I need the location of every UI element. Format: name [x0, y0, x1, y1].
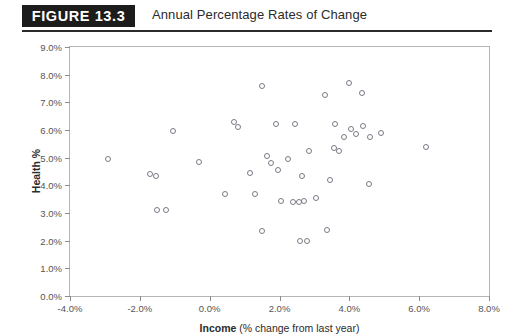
scatter-point: [259, 228, 265, 234]
scatter-point: [322, 92, 328, 98]
y-axis-tick-mark: [65, 268, 70, 269]
y-axis-tick-label: 2.0%: [40, 235, 62, 246]
x-axis-title-bold: Income: [200, 322, 237, 334]
scatter-point: [304, 238, 310, 244]
y-axis-tick-label: 4.0%: [40, 180, 62, 191]
scatter-point: [105, 156, 111, 162]
scatter-point: [366, 181, 372, 187]
y-axis-tick-label: 8.0%: [40, 69, 62, 80]
header-divider: [22, 30, 492, 32]
y-axis-tick-label: 9.0%: [40, 42, 62, 53]
x-axis-tick-mark: [280, 296, 281, 301]
scatter-point: [292, 121, 298, 127]
scatter-point: [327, 177, 333, 183]
y-axis-tick-label: 5.0%: [40, 152, 62, 163]
scatter-point: [297, 238, 303, 244]
scatter-point: [154, 207, 160, 213]
x-axis-tick-mark: [210, 296, 211, 301]
scatter-point: [153, 173, 159, 179]
y-axis-tick-label: 0.0%: [40, 291, 62, 302]
y-axis-tick-mark: [65, 213, 70, 214]
scatter-point: [222, 191, 228, 197]
scatter-point: [285, 156, 291, 162]
x-axis-tick-label: 8.0%: [478, 303, 500, 314]
scatter-point: [336, 148, 342, 154]
scatter-point: [313, 195, 319, 201]
y-axis-tick-label: 1.0%: [40, 263, 62, 274]
scatter-point: [423, 144, 429, 150]
scatter-point: [324, 227, 330, 233]
y-axis-tick-label: 3.0%: [40, 208, 62, 219]
x-axis-tick-label: 6.0%: [408, 303, 430, 314]
y-axis-tick-mark: [65, 241, 70, 242]
x-axis-tick-label: -2.0%: [127, 303, 152, 314]
x-axis-tick-label: 2.0%: [269, 303, 291, 314]
figure-header: FIGURE 13.3 Annual Percentage Rates of C…: [0, 0, 514, 34]
plot-area: 0.0%1.0%2.0%3.0%4.0%5.0%6.0%7.0%8.0%9.0%…: [69, 46, 490, 297]
scatter-point: [163, 207, 169, 213]
x-axis-tick-label: 4.0%: [339, 303, 361, 314]
y-axis-tick-mark: [65, 102, 70, 103]
scatter-point: [268, 160, 274, 166]
x-axis-tick-mark: [419, 296, 420, 301]
figure-number-badge: FIGURE 13.3: [22, 5, 135, 27]
scatter-point: [301, 198, 307, 204]
x-axis-tick-mark: [70, 296, 71, 301]
x-axis-tick-mark: [140, 296, 141, 301]
scatter-chart: Health % 0.0%1.0%2.0%3.0%4.0%5.0%6.0%7.0…: [0, 34, 514, 336]
y-axis-tick-mark: [65, 158, 70, 159]
y-axis-tick-mark: [65, 185, 70, 186]
scatter-point: [332, 121, 338, 127]
x-axis-title-rest: (% change from last year): [236, 322, 359, 334]
scatter-point: [353, 131, 359, 137]
x-axis-tick-mark: [349, 296, 350, 301]
scatter-point: [196, 159, 202, 165]
scatter-point: [306, 148, 312, 154]
x-axis-tick-mark: [489, 296, 490, 301]
scatter-point: [170, 128, 176, 134]
scatter-point: [259, 83, 265, 89]
x-axis-tick-label: -4.0%: [58, 303, 83, 314]
scatter-point: [247, 170, 253, 176]
scatter-point: [359, 90, 365, 96]
y-axis-tick-mark: [65, 75, 70, 76]
y-axis-tick-mark: [65, 130, 70, 131]
scatter-point: [275, 167, 281, 173]
x-axis-tick-label: 0.0%: [199, 303, 221, 314]
figure-title: Annual Percentage Rates of Change: [152, 7, 367, 22]
scatter-point: [273, 121, 279, 127]
y-axis-tick-label: 7.0%: [40, 97, 62, 108]
scatter-point: [299, 173, 305, 179]
scatter-point: [346, 80, 352, 86]
scatter-point: [341, 134, 347, 140]
scatter-point: [378, 130, 384, 136]
x-axis-title: Income (% change from last year): [69, 322, 490, 334]
scatter-point: [278, 198, 284, 204]
y-axis-tick-label: 6.0%: [40, 125, 62, 136]
scatter-point: [264, 153, 270, 159]
scatter-point: [360, 123, 366, 129]
scatter-point: [252, 191, 258, 197]
y-axis-tick-mark: [65, 47, 70, 48]
scatter-point: [235, 124, 241, 130]
scatter-point: [367, 134, 373, 140]
